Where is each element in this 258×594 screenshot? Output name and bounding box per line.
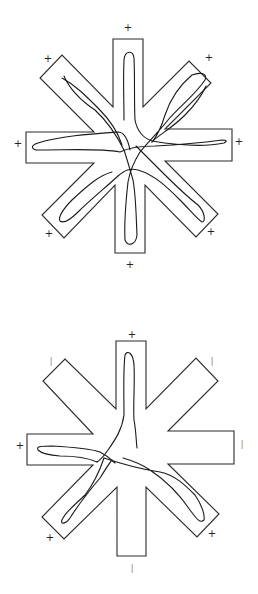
arm-marker-sw: + (46, 532, 54, 543)
arm-marker-nw: | (50, 357, 53, 366)
arm-marker-s: | (131, 564, 134, 573)
arm-marker-e: + (235, 136, 243, 147)
arm-marker-n: + (124, 22, 132, 33)
arm-marker-nw: + (44, 53, 52, 64)
arm-marker-se: + (207, 226, 215, 237)
arm-marker-ne: + (205, 52, 213, 63)
radial-maze-diagram: + + + + + + + + + | | + (0, 0, 258, 594)
arm-marker-s: + (126, 259, 134, 270)
maze-figure: + + + + + + + + + | | + (0, 0, 258, 594)
arm-marker-w: + (16, 440, 24, 451)
arm-marker-se: + (208, 528, 216, 539)
arm-marker-sw: + (45, 228, 53, 239)
arm-marker-n: + (128, 329, 136, 340)
arm-marker-ne: | (211, 357, 214, 366)
maze-outline (27, 341, 234, 556)
maze-bottom: + | | + | + + | (16, 329, 244, 573)
arm-marker-e: | (241, 440, 244, 449)
arm-marker-w: + (14, 138, 22, 149)
maze-top: + + + + + + + + (14, 22, 243, 270)
